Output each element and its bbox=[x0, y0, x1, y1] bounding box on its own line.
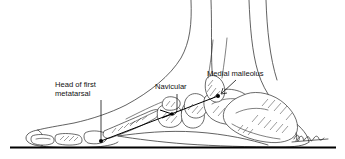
label-medial-malleolus: Medial malleolus bbox=[207, 69, 264, 78]
artist-signature bbox=[292, 133, 328, 142]
label-metatarsal-line2: metatarsal bbox=[55, 89, 91, 98]
measurement-endpoint-metatarsal bbox=[99, 139, 103, 143]
foot-anatomy-figure: Head of first metatarsal Navicular Media… bbox=[0, 0, 345, 159]
label-metatarsal-line1: Head of first bbox=[55, 80, 97, 89]
calcaneus-bone bbox=[223, 92, 297, 142]
foot-diagram-svg: Head of first metatarsal Navicular Media… bbox=[0, 0, 345, 159]
phalanges-group bbox=[31, 131, 107, 145]
label-navicular: Navicular bbox=[155, 82, 187, 91]
measurement-endpoint-malleolus bbox=[216, 94, 220, 98]
